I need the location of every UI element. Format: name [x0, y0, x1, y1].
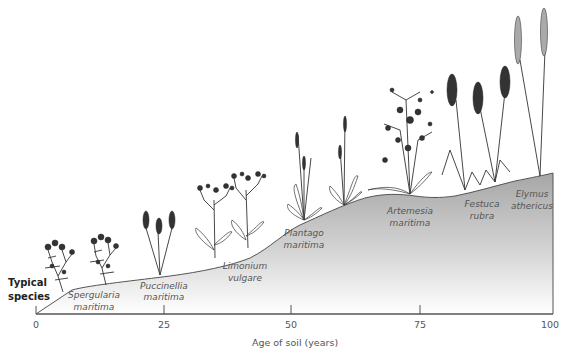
plant-artemesia	[368, 88, 434, 194]
svg-text:Limonium: Limonium	[223, 261, 268, 271]
succession-diagram: 0 25 50 75 100 Age of soil (years) Typic…	[0, 0, 566, 354]
plant-spergularia-2	[90, 234, 119, 285]
plant-limonium-1	[196, 184, 234, 259]
x-axis-title: Age of soil (years)	[252, 337, 338, 348]
tick-label-0: 0	[33, 319, 39, 330]
plant-plantago-2	[330, 116, 362, 205]
svg-text:maritima: maritima	[74, 302, 115, 312]
svg-text:athericus: athericus	[511, 201, 553, 211]
plant-festuca	[442, 66, 510, 190]
tick-label-25: 25	[158, 319, 170, 330]
plant-spergularia-1	[45, 240, 75, 292]
typical-species-label-line1: Typical	[8, 277, 47, 288]
plant-elymus	[515, 8, 548, 176]
svg-text:maritima: maritima	[284, 240, 325, 250]
tick-label-50: 50	[285, 319, 297, 330]
svg-text:Elymus: Elymus	[516, 189, 549, 199]
plant-plantago-1	[288, 132, 322, 220]
svg-text:maritima: maritima	[390, 218, 431, 228]
plant-puccinellia	[143, 211, 175, 275]
svg-text:Spergularia: Spergularia	[68, 290, 120, 300]
svg-text:Festuca: Festuca	[464, 199, 499, 209]
plant-limonium-2	[232, 172, 267, 249]
tick-label-100: 100	[541, 319, 559, 330]
svg-text:rubra: rubra	[470, 211, 494, 221]
svg-text:Plantago: Plantago	[284, 228, 324, 238]
typical-species-label-line2: species	[8, 291, 50, 302]
tick-label-75: 75	[414, 319, 426, 330]
svg-text:maritima: maritima	[144, 292, 185, 302]
svg-text:Puccinellia: Puccinellia	[140, 281, 188, 291]
svg-text:vulgare: vulgare	[228, 273, 262, 283]
species-label-puccinellia: Puccinellia maritima	[140, 281, 188, 302]
svg-text:Artemesia: Artemesia	[386, 206, 433, 216]
